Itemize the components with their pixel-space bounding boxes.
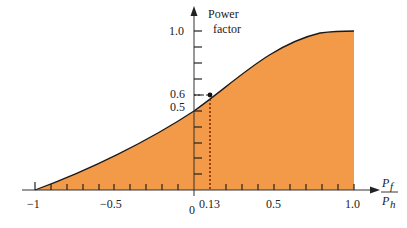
- x-axis-arrow-icon: [370, 187, 380, 194]
- x-tick-label-05: 0.5: [266, 197, 281, 211]
- x-axis-label: P f P h: [381, 176, 398, 210]
- x-tick-label-0: 0: [189, 203, 195, 217]
- y-tick-label-1-0: 1.0: [169, 24, 184, 38]
- svg-text:f: f: [390, 180, 395, 192]
- y-axis-arrow-icon: [191, 6, 198, 16]
- y-axis-label-line1: Power: [208, 7, 239, 21]
- y-tick-label-0-5: 0.5: [170, 100, 185, 114]
- svg-text:P: P: [381, 176, 390, 190]
- x-tick-label-neg05: −0.5: [100, 197, 122, 211]
- power-factor-chart: Power factor 1.0 0.6 0.5 −1 −0.5 0 0.13 …: [0, 0, 407, 228]
- x-tick-label-10: 1.0: [345, 197, 360, 211]
- x-tick-label-013: 0.13: [199, 197, 220, 211]
- svg-text:h: h: [390, 198, 396, 210]
- operating-point-marker: [208, 93, 213, 98]
- x-tick-label-neg1: −1: [27, 197, 40, 211]
- y-tick-label-0-6: 0.6: [170, 87, 185, 101]
- svg-text:P: P: [381, 194, 390, 208]
- y-axis-label-line2: factor: [213, 22, 241, 36]
